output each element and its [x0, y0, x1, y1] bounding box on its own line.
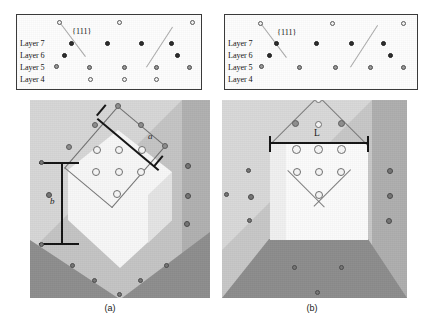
plane-trace-right-b	[350, 25, 378, 67]
surface-dot	[70, 263, 75, 268]
micrograph-b: L	[222, 100, 407, 298]
surface-dot	[386, 218, 392, 224]
lattice-dot	[338, 120, 345, 127]
layer-label-4-b: Layer 4	[228, 75, 253, 84]
atom-dot	[258, 21, 263, 26]
surface-dot	[248, 194, 254, 200]
lattice-dot-open	[92, 168, 100, 176]
texture-overlay	[225, 15, 417, 89]
layer-label-6-b: Layer 6	[228, 51, 253, 60]
atom-dot	[368, 65, 373, 70]
atom-dot	[187, 65, 192, 70]
layer-label-5-a: Layer 5	[20, 63, 45, 72]
dimension-L-label: L	[314, 128, 320, 138]
atom-dot	[381, 41, 386, 46]
lattice-dot	[92, 122, 98, 128]
lattice-dot-open	[337, 145, 346, 154]
atom-dot	[175, 53, 180, 58]
atom-dot	[139, 41, 144, 46]
layer-label-7-a: Layer 7	[20, 39, 45, 48]
atom-dot	[401, 65, 406, 70]
atom-dot	[122, 77, 127, 82]
atom-dot	[154, 65, 159, 70]
dimension-L-bar	[270, 142, 368, 144]
atom-dot	[190, 20, 195, 25]
surface-dot	[246, 168, 251, 173]
dimension-a-label: a	[148, 131, 153, 141]
surface-dot	[247, 218, 252, 223]
atom-dot	[122, 65, 127, 70]
dimension-b-tick-bottom	[39, 243, 79, 245]
atom-dot	[267, 53, 272, 58]
schematic-box-b: {111} Layer 7 Layer 6 Layer 5 Layer 4	[224, 14, 418, 90]
surface-dot	[387, 168, 393, 174]
lattice-dot-open	[93, 146, 101, 154]
lattice-dot	[292, 120, 299, 127]
atom-dot	[54, 64, 59, 69]
atom-dot	[259, 64, 264, 69]
lattice-dot	[162, 143, 168, 149]
layer-label-6-a: Layer 6	[20, 51, 45, 60]
panel-b: {111} Layer 7 Layer 6 Layer 5 Layer 4	[216, 0, 432, 326]
atom-dot	[105, 41, 110, 46]
surface-dot	[184, 221, 190, 227]
dimension-b-label: b	[50, 196, 55, 206]
atom-dot	[388, 53, 393, 58]
caption-b: (b)	[298, 303, 326, 313]
lattice-dot-open	[115, 168, 123, 176]
plane-trace-right-a	[146, 27, 173, 68]
atom-dot	[169, 41, 174, 46]
surface-dot	[164, 263, 169, 268]
lattice-dot-open	[315, 121, 322, 128]
atom-dot	[349, 41, 354, 46]
atom-dot	[69, 41, 74, 46]
surface-dot	[138, 278, 143, 283]
atom-dot	[333, 65, 338, 70]
surface-dot	[292, 265, 297, 270]
surface-dot	[387, 193, 393, 199]
caption-a: (a)	[96, 303, 124, 313]
lattice-dot-open	[115, 146, 123, 154]
atom-dot	[88, 77, 93, 82]
surface-dot	[315, 290, 320, 295]
layer-label-7-b: Layer 7	[228, 39, 253, 48]
surface-dot	[92, 278, 97, 283]
atom-dot	[62, 53, 67, 58]
surface-dot	[117, 292, 122, 297]
dimension-L-tick-left	[269, 136, 271, 152]
atom-dot	[154, 77, 159, 82]
surface-dot	[224, 192, 229, 197]
lattice-dot-open	[113, 190, 121, 198]
lattice-dot	[138, 122, 144, 128]
miller-index-label-b: {111}	[277, 28, 297, 37]
layer-label-4-a: Layer 4	[20, 75, 45, 84]
atom-dot	[314, 41, 319, 46]
atom-dot	[117, 20, 122, 25]
lattice-dot	[115, 103, 121, 109]
dimension-b-bar	[61, 162, 63, 244]
lattice-dot-open	[315, 191, 323, 199]
lattice-dot-open	[314, 145, 323, 154]
lattice-dot-open	[337, 168, 345, 176]
surface-dot	[339, 265, 344, 270]
atom-dot	[87, 65, 92, 70]
surface-dot	[185, 163, 191, 169]
micrograph-a: a b	[30, 100, 210, 298]
layer-label-5-b: Layer 5	[228, 63, 253, 72]
surface-dot	[185, 193, 191, 199]
surface-dot	[39, 160, 44, 165]
atom-dot	[401, 21, 406, 26]
lattice-dot-open	[315, 168, 323, 176]
dimension-L-tick-right	[367, 136, 369, 152]
dimension-b-tick-top	[39, 162, 79, 164]
schematic-box-a: {111} Layer 7 Layer 6 Layer 5 Layer 4	[16, 14, 202, 90]
atom-dot	[274, 41, 279, 46]
atom-dot	[57, 20, 62, 25]
figure-root: {111} Layer 7 Layer 6 Layer 5 Layer 4	[0, 0, 432, 326]
miller-index-label-a: {111}	[72, 27, 92, 36]
atom-dot	[297, 65, 302, 70]
lattice-dot	[66, 144, 72, 150]
atom-dot	[330, 21, 335, 26]
panel-a: {111} Layer 7 Layer 6 Layer 5 Layer 4	[0, 0, 216, 326]
surface-dot	[46, 192, 52, 198]
